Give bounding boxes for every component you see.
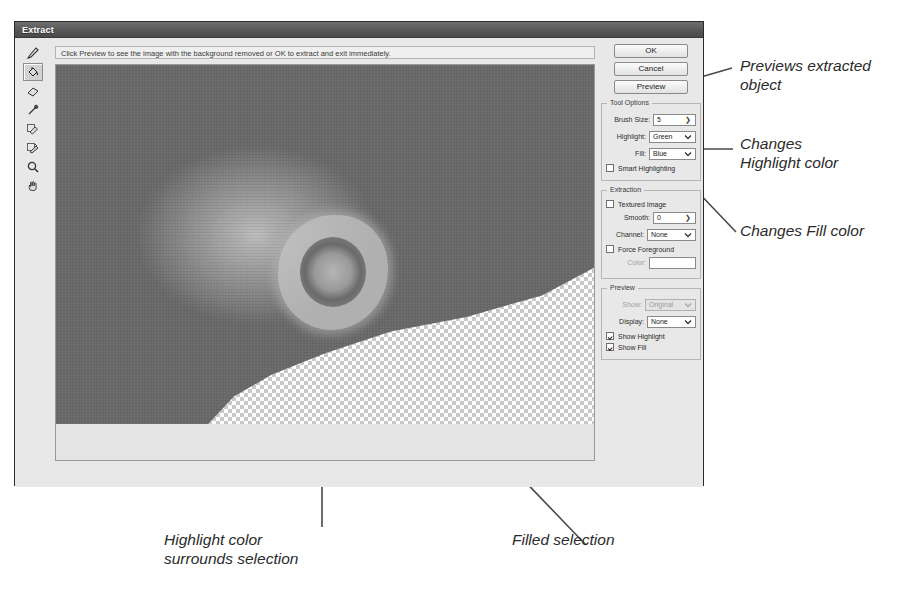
channel-row: Channel: None <box>606 228 696 241</box>
channel-value: None <box>651 229 668 240</box>
preview-group-label: Preview <box>607 284 638 291</box>
display-select[interactable]: None <box>647 316 696 328</box>
zoom-tool[interactable] <box>23 158 43 176</box>
channel-label: Channel: <box>606 231 644 238</box>
show-fill-checkbox[interactable] <box>606 343 614 351</box>
display-row: Display: None <box>606 315 696 328</box>
canvas-empty-area <box>56 424 595 460</box>
edge-touchup-tool[interactable] <box>23 139 43 157</box>
chevron-down-icon <box>682 300 694 310</box>
annotation-highlight-surrounds-selection: Highlight color surrounds selection <box>164 530 298 568</box>
smooth-input[interactable]: 0 ❯ <box>653 212 696 224</box>
dialog-title-bar[interactable]: Extract <box>15 22 703 38</box>
tool-options-label: Tool Options <box>607 99 652 106</box>
eyedropper-icon <box>26 103 40 117</box>
annotation-changes-highlight-color: Changes Highlight color <box>740 134 838 172</box>
brush-size-value: 5 <box>657 114 661 125</box>
extract-dialog: Extract Click Preview to see the image w… <box>14 21 704 486</box>
chevron-down-icon[interactable] <box>682 132 694 142</box>
tool-palette <box>19 44 47 196</box>
fill-row: Fill: Blue <box>606 147 696 160</box>
smart-highlighting-checkbox[interactable] <box>606 164 614 172</box>
hint-bar: Click Preview to see the image with the … <box>55 46 595 59</box>
fill-color-select[interactable]: Blue <box>649 148 696 160</box>
force-foreground-checkbox[interactable] <box>606 245 614 253</box>
force-foreground-row[interactable]: Force Foreground <box>606 245 696 253</box>
image-preview-canvas[interactable] <box>55 64 595 461</box>
dialog-title: Extract <box>15 25 54 35</box>
selection-fill-area <box>300 237 366 307</box>
annotation-previews-extracted-object: Previews extracted object <box>740 56 871 94</box>
textured-image-label: Textured Image <box>618 201 666 208</box>
eraser-icon <box>26 84 40 98</box>
dialog-body: Click Preview to see the image with the … <box>15 38 703 487</box>
preview-button[interactable]: Preview <box>614 80 688 94</box>
hand-tool[interactable] <box>23 177 43 195</box>
cleanup-brush-icon <box>26 122 40 136</box>
color-swatch-field[interactable] <box>649 257 696 269</box>
display-label: Display: <box>606 318 644 325</box>
extraction-label: Extraction <box>607 186 644 193</box>
annotation-filled-selection: Filled selection <box>512 530 615 549</box>
eraser-tool[interactable] <box>23 82 43 100</box>
smooth-label: Smooth: <box>606 214 650 221</box>
brush-size-input[interactable]: 5 ❯ <box>653 114 696 126</box>
show-row: Show: Original <box>606 298 696 311</box>
cleanup-tool[interactable] <box>23 120 43 138</box>
smart-highlighting-label: Smart Highlighting <box>618 165 675 172</box>
show-fill-label: Show Fill <box>618 344 646 351</box>
show-select: Original <box>645 299 696 311</box>
force-foreground-label: Force Foreground <box>618 246 674 253</box>
preview-group: Preview Show: Original Display: None <box>601 288 701 360</box>
options-panel: OK Cancel Preview Tool Options Brush Siz… <box>601 44 701 360</box>
chevron-down-icon[interactable] <box>682 230 694 240</box>
highlight-label: Highlight: <box>606 133 646 140</box>
ok-button[interactable]: OK <box>614 44 688 58</box>
edge-touchup-icon <box>26 141 40 155</box>
edge-highlighter-tool[interactable] <box>23 44 43 62</box>
magnifier-icon <box>26 160 40 174</box>
show-highlight-row[interactable]: Show Highlight <box>606 332 696 340</box>
textured-image-row[interactable]: Textured Image <box>606 200 696 208</box>
highlight-color-select[interactable]: Green <box>649 131 696 143</box>
brush-size-stepper-icon[interactable]: ❯ <box>682 115 694 125</box>
display-value: None <box>651 316 668 327</box>
channel-select[interactable]: None <box>647 229 696 241</box>
highlight-color-value: Green <box>653 131 672 142</box>
chevron-down-icon[interactable] <box>682 149 694 159</box>
color-row: Color: <box>606 256 696 269</box>
textured-image-checkbox[interactable] <box>606 200 614 208</box>
smooth-value: 0 <box>657 212 661 223</box>
smooth-stepper-icon[interactable]: ❯ <box>682 213 694 223</box>
fill-color-value: Blue <box>653 148 667 159</box>
show-highlight-label: Show Highlight <box>618 333 665 340</box>
show-label: Show: <box>606 301 642 308</box>
show-highlight-checkbox[interactable] <box>606 332 614 340</box>
cancel-button[interactable]: Cancel <box>614 62 688 76</box>
fill-label: Fill: <box>606 150 646 157</box>
hand-icon <box>26 179 40 193</box>
fill-tool[interactable] <box>23 63 43 81</box>
color-label: Color: <box>606 259 646 266</box>
eyedropper-tool[interactable] <box>23 101 43 119</box>
extraction-group: Extraction Textured Image Smooth: 0 ❯ Ch… <box>601 190 701 279</box>
chevron-down-icon[interactable] <box>682 317 694 327</box>
paint-bucket-icon <box>26 65 40 79</box>
brush-size-row: Brush Size: 5 ❯ <box>606 113 696 126</box>
marker-pen-icon <box>26 46 40 60</box>
show-fill-row[interactable]: Show Fill <box>606 343 696 351</box>
smart-highlighting-row[interactable]: Smart Highlighting <box>606 164 696 172</box>
highlight-row: Highlight: Green <box>606 130 696 143</box>
tool-options-group: Tool Options Brush Size: 5 ❯ Highlight: … <box>601 103 701 181</box>
brush-size-label: Brush Size: <box>606 116 650 123</box>
show-value: Original <box>649 299 673 310</box>
smooth-row: Smooth: 0 ❯ <box>606 211 696 224</box>
annotation-changes-fill-color: Changes Fill color <box>740 221 864 240</box>
